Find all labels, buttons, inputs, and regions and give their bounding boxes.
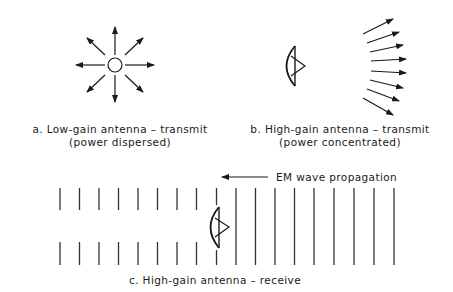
isotropic-antenna-icon xyxy=(108,58,122,72)
high-gain-receive-figure xyxy=(60,177,394,265)
beam-arrow-4 xyxy=(371,59,406,61)
panel-b-subtitle: (power concentrated) xyxy=(240,136,440,148)
radiation-arrow-down-right xyxy=(125,75,143,92)
blocked-wavefronts xyxy=(60,188,217,265)
incoming-wavefronts xyxy=(236,188,394,265)
beam-arrow-7 xyxy=(367,89,399,101)
panel-a-title: a. Low-gain antenna – transmit xyxy=(20,123,220,135)
propagation-label: EM wave propagation xyxy=(276,171,397,183)
low-gain-antenna-figure xyxy=(76,27,154,102)
beam-arrow-8 xyxy=(363,98,393,115)
receive-dish-antenna-icon xyxy=(211,207,230,248)
panel-c-title: c. High-gain antenna – receive xyxy=(120,274,310,286)
beam-arrow-1 xyxy=(363,19,393,34)
beam-arrow-2 xyxy=(367,32,399,43)
beam-arrow-6 xyxy=(370,80,403,88)
radiation-arrow-down-left xyxy=(87,75,105,92)
radiation-arrow-up-right xyxy=(125,38,143,55)
beam-arrow-3 xyxy=(370,45,403,52)
radiation-arrow-up-left xyxy=(87,38,105,55)
high-gain-transmit-figure xyxy=(287,19,407,115)
beam-arrow-5 xyxy=(371,71,406,73)
panel-a-subtitle: (power dispersed) xyxy=(20,136,220,148)
panel-b-title: b. High-gain antenna – transmit xyxy=(240,123,440,135)
dish-antenna-icon xyxy=(287,46,306,86)
